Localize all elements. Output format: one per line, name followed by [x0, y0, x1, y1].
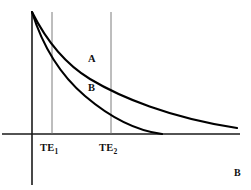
axis-b-label: B — [234, 168, 241, 178]
tick-label-te2-subscript: 2 — [113, 147, 117, 156]
tick-label-te2: TE2 — [99, 143, 117, 156]
curve-b-label: B — [88, 83, 95, 94]
decay-curve-figure: TE1 TE2 A B B — [0, 0, 251, 190]
tick-label-te2-text: TE — [99, 142, 113, 153]
tick-label-te1: TE1 — [40, 143, 58, 156]
curve-a — [32, 12, 237, 128]
curve-a-label: A — [88, 54, 96, 65]
curve-b — [32, 12, 162, 134]
tick-label-te1-subscript: 1 — [54, 147, 58, 156]
tick-label-te1-text: TE — [40, 142, 54, 153]
plot-canvas — [0, 0, 251, 190]
